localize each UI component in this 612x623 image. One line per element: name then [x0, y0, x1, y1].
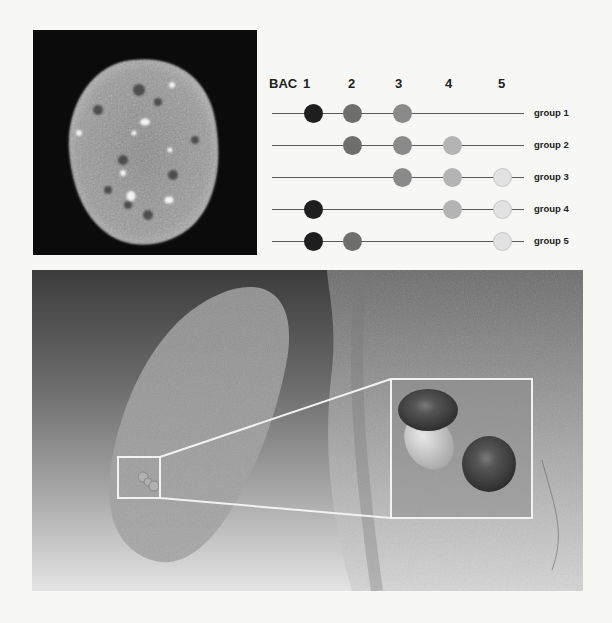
- group-label: group 2: [534, 139, 569, 150]
- bac-column-4: 4: [445, 76, 452, 91]
- bac-group-diagram: BAC 1 2 3 4 5 group 1group 2group 3group…: [262, 72, 602, 262]
- bac-column-3: 3: [395, 76, 402, 91]
- bac-column-5: 5: [498, 76, 505, 91]
- bac-column-1: 1: [303, 76, 310, 91]
- bac-2-dot: [343, 136, 362, 155]
- bac-header-label: BAC: [269, 76, 297, 91]
- bac-3-dot: [393, 136, 412, 155]
- bac-2-dot: [343, 232, 362, 251]
- bac-5-dot: [493, 168, 512, 187]
- nucleus-icon: [33, 30, 257, 255]
- bac-1-dot: [304, 200, 323, 219]
- bac-column-2: 2: [348, 76, 355, 91]
- group-label: group 5: [534, 235, 569, 246]
- group-label: group 1: [534, 107, 569, 118]
- bac-4-dot: [443, 200, 462, 219]
- group-label: group 3: [534, 171, 569, 182]
- nucleus-3d-rendering: [32, 270, 583, 591]
- bac-1-dot: [304, 232, 323, 251]
- bac-3-dot: [393, 104, 412, 123]
- bac-1-dot: [304, 104, 323, 123]
- bac-5-dot: [493, 232, 512, 251]
- bac-5-dot: [493, 200, 512, 219]
- bac-2-dot: [343, 104, 362, 123]
- bac-3-dot: [393, 168, 412, 187]
- nucleus-fluorescence-image: [33, 30, 257, 255]
- group-label: group 4: [534, 203, 569, 214]
- render-scene-icon: [32, 270, 583, 591]
- bac-4-dot: [443, 168, 462, 187]
- bac-4-dot: [443, 136, 462, 155]
